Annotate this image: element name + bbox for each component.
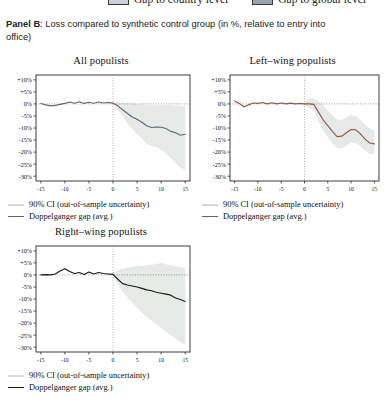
svg-text:0%: 0% [218,100,226,107]
svg-text:-20%: -20% [213,148,226,155]
svg-text:5: 5 [326,186,329,192]
legend-ci-line-icon [8,375,24,377]
svg-text:-5: -5 [279,186,284,192]
svg-text:-5%: -5% [22,112,32,119]
svg-text:-10: -10 [61,357,69,363]
top-legend-label-global: Gap to global level [278,0,366,5]
svg-text:+5%: +5% [20,88,32,95]
plot-area-all-populists: +10%+5%0%-5%-10%-15%-20%-25%-30%-15-10-5… [6,69,196,197]
svg-text:-10%: -10% [213,124,226,131]
svg-text:-5%: -5% [216,112,226,119]
legend-gap-label: Doppelganger gap (avg.) [29,211,112,223]
svg-text:-30%: -30% [213,173,226,180]
svg-text:-15%: -15% [19,136,32,143]
svg-text:0: 0 [112,186,115,192]
svg-text:-15: -15 [37,357,45,363]
top-legend: Gap to country level Gap to global level [0,0,387,12]
svg-text:0%: 0% [24,271,32,278]
svg-text:-30%: -30% [19,173,32,180]
svg-text:-25%: -25% [19,332,32,339]
svg-text:0%: 0% [24,100,32,107]
top-legend-item-country: Gap to country level [108,0,228,5]
svg-text:-25%: -25% [213,161,226,168]
legend-row-gap: Doppelganger gap (avg.) [8,382,196,394]
svg-text:10: 10 [158,186,164,192]
legend-gap-line-icon [8,216,24,217]
legend-ci-label: 90% CI (out-of-sample uncertainty) [29,199,149,211]
svg-text:-5%: -5% [22,283,32,290]
legend-ci-line-icon [202,204,218,206]
plot-area-right-wing-populists: +10%+5%0%-5%-10%-15%-20%-25%-30%-15-10-5… [6,240,196,368]
panel-caption-prefix: Panel B [6,19,40,29]
svg-text:-10: -10 [254,186,262,192]
panel-caption: Panel B: Loss compared to synthetic cont… [6,18,336,44]
chart-legend-right-wing-populists: 90% CI (out-of-sample uncertainty) Doppe… [6,370,196,393]
legend-row-ci: 90% CI (out-of-sample uncertainty) [8,370,196,382]
legend-ci-line-icon [8,204,24,206]
svg-text:-10: -10 [61,186,69,192]
svg-text:+10%: +10% [17,76,32,83]
svg-text:+10%: +10% [17,247,32,254]
plot-svg-right-wing-populists: +10%+5%0%-5%-10%-15%-20%-25%-30%-15-10-5… [6,240,196,368]
legend-row-ci: 90% CI (out-of-sample uncertainty) [8,199,196,211]
svg-text:5: 5 [136,357,139,363]
svg-text:10: 10 [348,186,354,192]
plot-svg-all-populists: +10%+5%0%-5%-10%-15%-20%-25%-30%-15-10-5… [6,69,196,197]
svg-text:-30%: -30% [19,344,32,351]
svg-text:10: 10 [158,357,164,363]
svg-text:15: 15 [372,186,378,192]
svg-text:-5: -5 [87,357,92,363]
svg-text:+5%: +5% [20,259,32,266]
svg-text:-20%: -20% [19,148,32,155]
legend-swatch-global-icon [252,0,273,5]
legend-gap-line-icon [8,387,24,388]
legend-ci-label: 90% CI (out-of-sample uncertainty) [29,370,149,382]
chart-all-populists: All populists +10%+5%0%-5%-10%-15%-20%-2… [6,55,196,223]
legend-gap-line-icon [202,216,218,217]
legend-row-gap: Doppelganger gap (avg.) [8,211,196,223]
svg-text:-15: -15 [37,186,45,192]
svg-text:0: 0 [303,186,306,192]
top-legend-label-country: Gap to country level [134,0,228,5]
svg-text:-15%: -15% [19,307,32,314]
svg-text:-20%: -20% [19,319,32,326]
svg-text:+5%: +5% [214,88,226,95]
chart-right-wing-populists: Right–wing populists +10%+5%0%-5%-10%-15… [6,226,196,398]
svg-text:15: 15 [182,357,188,363]
plot-area-left-wing-populists: +10%+5%0%-5%-10%-15%-20%-25%-30%-15-10-5… [200,69,385,197]
chart-legend-all-populists: 90% CI (out-of-sample uncertainty) Doppe… [6,199,196,222]
svg-text:+10%: +10% [211,76,226,83]
legend-swatch-country-icon [108,0,129,5]
legend-row-gap: Doppelganger gap (avg.) [202,211,385,223]
svg-text:-25%: -25% [19,161,32,168]
chart-title-left-wing-populists: Left–wing populists [200,55,385,66]
legend-gap-label: Doppelganger gap (avg.) [29,382,112,394]
chart-left-wing-populists: Left–wing populists +10%+5%0%-5%-10%-15%… [200,55,385,223]
chart-legend-left-wing-populists: 90% CI (out-of-sample uncertainty) Doppe… [200,199,385,222]
chart-title-right-wing-populists: Right–wing populists [6,226,196,237]
top-legend-item-global: Gap to global level [252,0,366,5]
svg-text:-15: -15 [231,186,239,192]
svg-text:5: 5 [136,186,139,192]
plot-svg-left-wing-populists: +10%+5%0%-5%-10%-15%-20%-25%-30%-15-10-5… [200,69,385,197]
legend-gap-label: Doppelganger gap (avg.) [223,211,306,223]
legend-row-ci: 90% CI (out-of-sample uncertainty) [202,199,385,211]
svg-text:-10%: -10% [19,124,32,131]
svg-text:-10%: -10% [19,295,32,302]
panel-caption-text: : Loss compared to synthetic control gro… [6,19,325,42]
svg-text:-5: -5 [87,186,92,192]
svg-text:15: 15 [182,186,188,192]
legend-ci-label: 90% CI (out-of-sample uncertainty) [223,199,343,211]
svg-text:-15%: -15% [213,136,226,143]
chart-title-all-populists: All populists [6,55,196,66]
svg-text:0: 0 [112,357,115,363]
